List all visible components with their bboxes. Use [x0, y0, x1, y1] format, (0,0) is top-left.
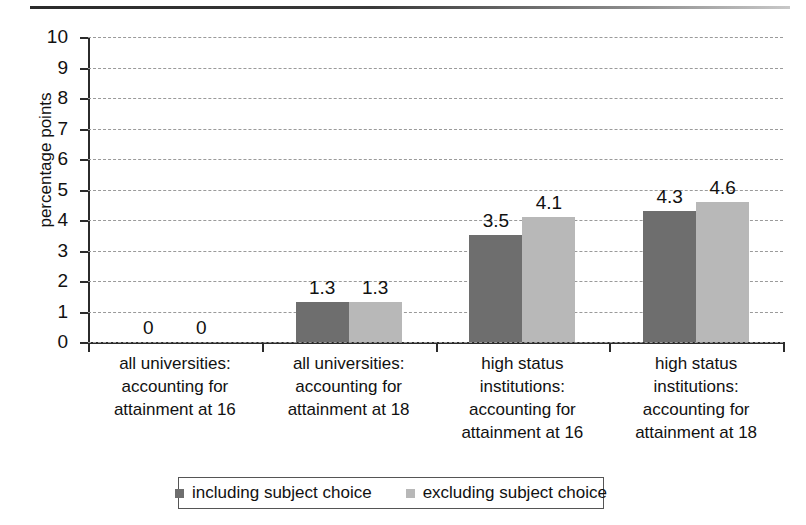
x-axis-category-label-line: accounting for: [88, 375, 262, 398]
x-axis-tick: [783, 342, 785, 352]
x-axis-category-label-line: high status: [436, 352, 610, 375]
bar: [349, 302, 402, 342]
y-axis-tick-label: 2: [40, 271, 68, 290]
x-axis-category-label: high statusinstitutions:accounting forat…: [609, 352, 783, 444]
y-axis-tick-label: 7: [40, 119, 68, 138]
legend-label: including subject choice: [192, 483, 372, 503]
x-axis-category-label-line: all universities:: [262, 352, 436, 375]
x-axis-category-label-line: accounting for: [262, 375, 436, 398]
bar-value-label: 4.1: [512, 193, 585, 212]
chart-legend: including subject choiceexcluding subjec…: [178, 477, 604, 509]
legend-item[interactable]: excluding subject choice: [406, 483, 607, 503]
x-axis-tick: [436, 342, 438, 352]
x-axis-category-label-line: institutions:: [609, 375, 783, 398]
x-axis-category-label-line: all universities:: [88, 352, 262, 375]
chart-page: percentage points 109876543210 001.31.33…: [0, 0, 806, 525]
x-axis-tick: [609, 342, 611, 352]
bar: [643, 211, 696, 342]
x-axis-category-label-line: attainment at 18: [609, 421, 783, 444]
gridline: [88, 98, 783, 99]
y-axis-tick-label: 9: [40, 58, 68, 77]
x-axis-category-label-line: attainment at 16: [436, 421, 610, 444]
bar: [296, 302, 349, 342]
x-axis-category-label: all universities:accounting forattainmen…: [262, 352, 436, 421]
gridline: [88, 68, 783, 69]
legend-swatch-icon: [175, 489, 184, 498]
x-axis-tick: [88, 342, 90, 352]
x-axis-category-label-line: accounting for: [609, 398, 783, 421]
y-axis-tick-label: 1: [40, 302, 68, 321]
x-axis-category-label-line: high status: [609, 352, 783, 375]
legend-item[interactable]: including subject choice: [175, 483, 372, 503]
x-axis-category-label-line: attainment at 16: [88, 398, 262, 421]
bar-value-label: 1.3: [339, 278, 412, 297]
gridline: [88, 129, 783, 130]
bar-value-label: 0: [165, 318, 238, 337]
x-axis-category-label: all universities:accounting forattainmen…: [88, 352, 262, 421]
y-axis-tick-label: 0: [40, 332, 68, 351]
gridline: [88, 37, 783, 38]
y-axis-tick-label: 6: [40, 149, 68, 168]
y-axis-tick-label: 8: [40, 88, 68, 107]
x-axis-category-label: high statusinstitutions:accounting forat…: [436, 352, 610, 444]
x-axis-category-label-line: attainment at 18: [262, 398, 436, 421]
bar: [522, 217, 575, 342]
y-axis-tick-label: 3: [40, 241, 68, 260]
x-axis-category-label-line: institutions:: [436, 375, 610, 398]
legend-label: excluding subject choice: [423, 483, 607, 503]
x-axis-tick: [262, 342, 264, 352]
bar-value-label: 3.5: [459, 211, 532, 230]
bar: [696, 202, 749, 342]
y-axis-tick-label: 4: [40, 210, 68, 229]
x-axis-category-label-line: accounting for: [436, 398, 610, 421]
bar-value-label: 4.6: [686, 178, 759, 197]
y-axis-tick-label: 10: [40, 27, 68, 46]
legend-swatch-icon: [406, 489, 415, 498]
bar: [469, 235, 522, 342]
page-top-rule: [30, 6, 790, 9]
gridline: [88, 342, 783, 343]
y-axis-tick-label: 5: [40, 180, 68, 199]
gridline: [88, 159, 783, 160]
